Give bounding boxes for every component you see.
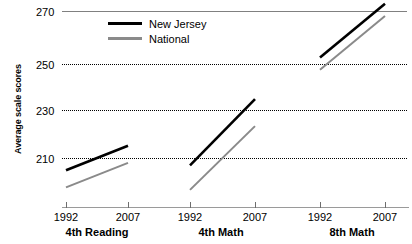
x-axis-line	[62, 207, 409, 208]
series-line-national-8th-math	[320, 16, 385, 70]
x-tick-3	[255, 202, 256, 208]
chart-container: Average scale scores 270 250 230 210 New…	[0, 0, 412, 244]
group-label-8th-math: 8th Math	[292, 226, 412, 238]
x-tick-label-4: 1992	[298, 211, 342, 223]
x-tick-5	[385, 202, 386, 208]
x-tick-label-0: 1992	[44, 211, 88, 223]
x-tick-2	[190, 202, 191, 208]
series-line-new-jersey-8th-math	[320, 4, 385, 58]
x-tick-label-2: 1992	[168, 211, 212, 223]
group-label-4th-reading: 4th Reading	[37, 226, 157, 238]
x-tick-label-5: 2007	[363, 211, 407, 223]
series-line-new-jersey-4th-math	[190, 99, 255, 165]
x-tick-0	[66, 202, 67, 208]
x-tick-label-3: 2007	[233, 211, 277, 223]
x-tick-label-1: 2007	[106, 211, 150, 223]
group-label-4th-math: 4th Math	[161, 226, 281, 238]
series-line-national-4th-math	[190, 126, 255, 190]
x-tick-4	[320, 202, 321, 208]
x-tick-1	[128, 202, 129, 208]
